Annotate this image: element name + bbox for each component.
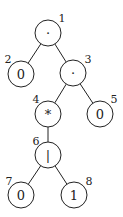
tree-node-8: 18 [61, 175, 93, 209]
node-symbol: 0 [96, 107, 104, 122]
node-index-label: 6 [33, 135, 40, 148]
node-index-label: 3 [85, 53, 92, 66]
node-symbol: * [45, 107, 52, 122]
node-index-label: 1 [59, 12, 66, 25]
tree-edge-1-2 [28, 44, 41, 63]
syntax-tree-diagram: ·102·3*405|60718 [0, 0, 123, 217]
tree-edge-3-5 [80, 84, 93, 103]
node-symbol: 1 [70, 188, 78, 203]
node-symbol: · [46, 26, 50, 41]
tree-node-3: ·3 [60, 53, 92, 87]
node-index-label: 2 [5, 53, 12, 66]
node-index-label: 4 [33, 93, 40, 106]
tree-edge-6-7 [28, 166, 40, 184]
node-index-label: 5 [111, 93, 118, 106]
node-symbol: 0 [17, 188, 25, 203]
tree-edge-1-3 [55, 44, 66, 62]
tree-edge-6-8 [55, 166, 67, 184]
node-index-label: 8 [86, 175, 93, 188]
node-symbol: | [46, 148, 50, 163]
node-index-label: 7 [6, 175, 13, 188]
tree-node-5: 05 [87, 93, 118, 128]
tree-edge-3-4 [55, 84, 66, 103]
node-symbol: · [71, 66, 75, 81]
tree-node-6: |6 [33, 135, 62, 169]
node-symbol: 0 [17, 67, 25, 82]
tree-node-4: *4 [33, 93, 62, 128]
tree-nodes: ·102·3*405|60718 [5, 12, 118, 209]
tree-node-2: 02 [5, 53, 35, 88]
tree-node-1: ·1 [35, 12, 66, 47]
tree-node-7: 07 [6, 175, 35, 209]
